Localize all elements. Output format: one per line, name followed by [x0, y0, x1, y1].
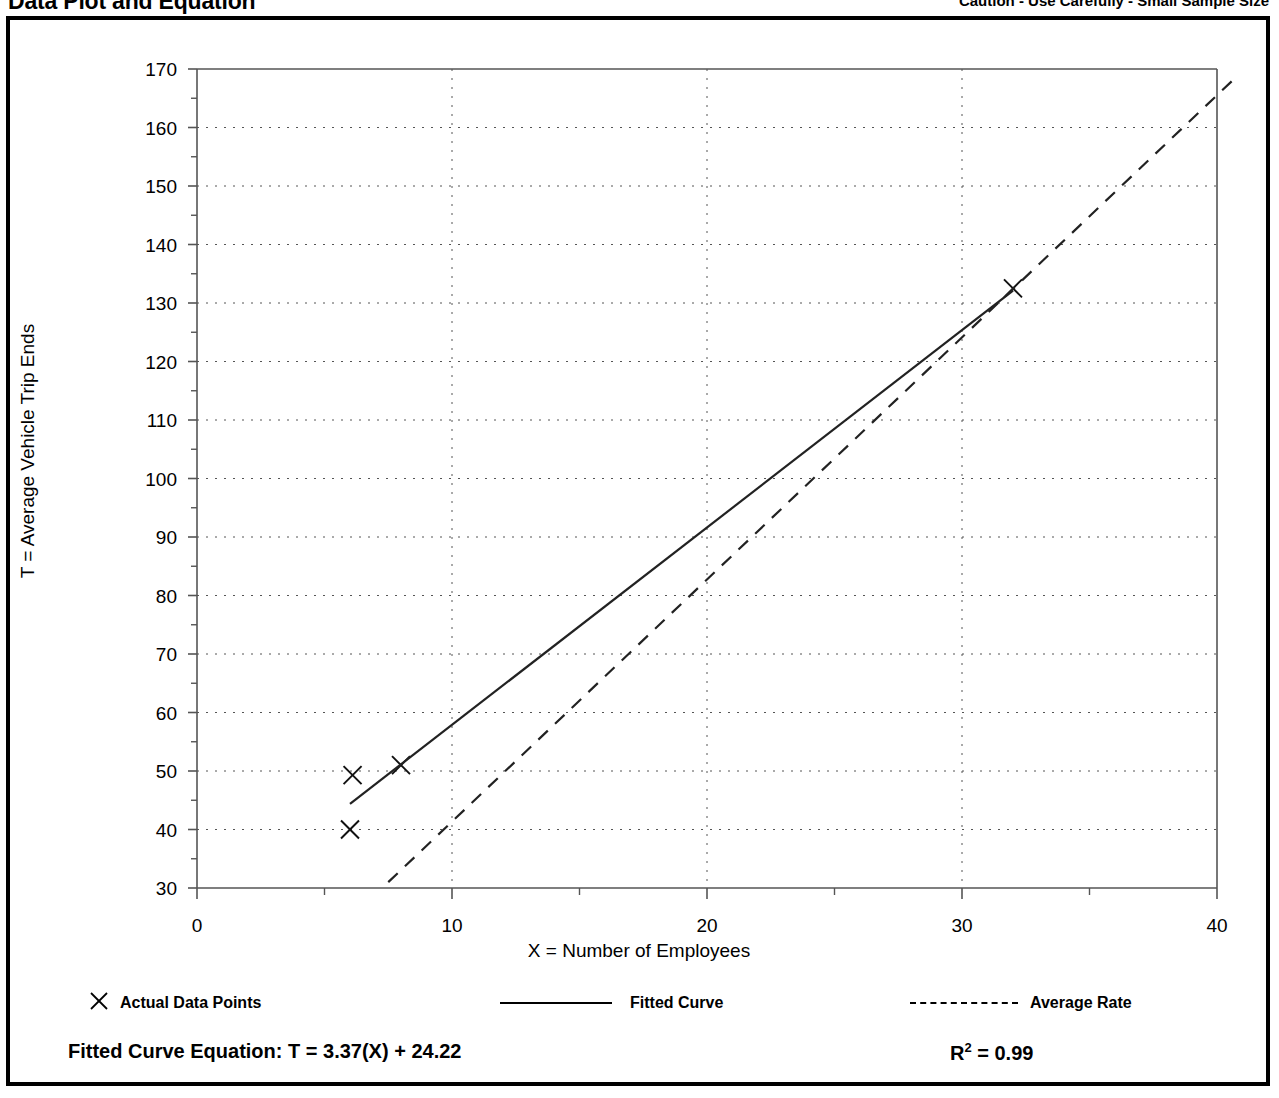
- y-tick-label: 40: [121, 821, 177, 840]
- x-tick-label: 30: [932, 916, 992, 935]
- fitted-curve-equation: Fitted Curve Equation: T = 3.37(X) + 24.…: [68, 1040, 461, 1063]
- x-tick-label: 20: [677, 916, 737, 935]
- y-tick-label: 30: [121, 879, 177, 898]
- chart-frame: T = Average Vehicle Trip Ends X = Number…: [6, 16, 1270, 1086]
- y-tick-label: 110: [121, 411, 177, 430]
- caution-note: Caution - Use Carefully - Small Sample S…: [959, 0, 1269, 9]
- y-tick-label: 150: [121, 177, 177, 196]
- legend-label-average-rate: Average Rate: [1030, 994, 1132, 1012]
- page-header: Data Plot and Equation Caution - Use Car…: [0, 0, 1279, 16]
- y-tick-label: 130: [121, 294, 177, 313]
- y-tick-label: 60: [121, 704, 177, 723]
- r-squared-number: = 0.99: [972, 1042, 1034, 1064]
- r-squared-value: R2 = 0.99: [950, 1040, 1033, 1065]
- y-tick-label: 70: [121, 645, 177, 664]
- r-squared-exponent: 2: [964, 1040, 971, 1055]
- dashed-line-icon: [910, 1002, 1018, 1004]
- y-tick-label: 120: [121, 353, 177, 372]
- x-marker-icon: [88, 990, 110, 1012]
- chart-legend: Actual Data Points Fitted Curve Average …: [10, 988, 1268, 1022]
- legend-label-fitted-curve: Fitted Curve: [630, 994, 723, 1012]
- page-title: Data Plot and Equation: [8, 0, 255, 15]
- y-tick-label: 100: [121, 470, 177, 489]
- x-tick-label: 10: [422, 916, 482, 935]
- plot-area: T = Average Vehicle Trip Ends X = Number…: [10, 20, 1274, 1082]
- x-tick-label: 0: [167, 916, 227, 935]
- solid-line-icon: [500, 1002, 612, 1004]
- y-tick-label: 140: [121, 236, 177, 255]
- equation-row: Fitted Curve Equation: T = 3.37(X) + 24.…: [10, 1040, 1268, 1076]
- x-tick-label: 40: [1187, 916, 1247, 935]
- y-tick-label: 90: [121, 528, 177, 547]
- legend-label-actual-data-points: Actual Data Points: [120, 994, 261, 1012]
- y-tick-label: 160: [121, 119, 177, 138]
- y-tick-label: 170: [121, 60, 177, 79]
- r-squared-prefix: R: [950, 1042, 964, 1064]
- y-tick-label: 80: [121, 587, 177, 606]
- y-tick-label: 50: [121, 762, 177, 781]
